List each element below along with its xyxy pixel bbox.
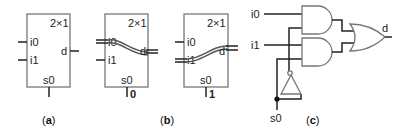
select-s0-label-c: s0 [270, 112, 282, 124]
panel-a: 2×1 i0 i1 d s0 (a) [18, 14, 79, 126]
input-i1-label-b1: i1 [187, 54, 196, 66]
mux-diagram: 2×1 i0 i1 d s0 (a) 2×1 i0 i1 d s0 0 2×1 … [0, 0, 403, 137]
panel-b-s0-1: 2×1 i0 i1 d s0 1 (b) [160, 14, 238, 126]
or-gate [350, 24, 385, 51]
input-i0-label-b1: i0 [187, 36, 196, 48]
not-gate [281, 75, 301, 94]
and-gate-2 [302, 38, 332, 66]
and-gate-1 [302, 6, 332, 34]
input-i1-label-c: i1 [251, 39, 260, 51]
mux-size-label-a: 2×1 [50, 17, 69, 29]
input-i0-label-c: i0 [251, 8, 260, 20]
wire-s0-to-inverter [277, 94, 301, 99]
mux-size-label-b0: 2×1 [128, 17, 147, 29]
caption-c: (c) [306, 114, 319, 126]
output-d-label-a: d [61, 45, 67, 57]
wire-not-s0-to-and1 [289, 28, 302, 73]
select-s0-label-b1: s0 [200, 74, 212, 86]
input-i1-label-b0: i1 [108, 54, 117, 66]
select-s0-label-a: s0 [43, 74, 55, 86]
select-value-0: 0 [130, 88, 136, 100]
input-i1-label-a: i1 [30, 54, 39, 66]
input-i0-label-b0: i0 [108, 36, 117, 48]
select-s0-label-b0: s0 [121, 74, 133, 86]
select-value-1: 1 [209, 88, 215, 100]
caption-b: (b) [160, 114, 174, 126]
mux-size-label-b1: 2×1 [207, 17, 226, 29]
output-d-label-b1: d [219, 45, 225, 57]
output-d-label-b0: d [140, 45, 146, 57]
panel-b-s0-0: 2×1 i0 i1 d s0 0 [96, 14, 158, 100]
not-gate-bubble [288, 71, 292, 75]
input-i0-label-a: i0 [30, 36, 39, 48]
caption-a: (a) [42, 114, 55, 126]
output-d-label-c: d [382, 22, 388, 34]
panel-c: i0 i1 d s0 (c) [251, 6, 392, 126]
junction-dot [274, 96, 279, 101]
